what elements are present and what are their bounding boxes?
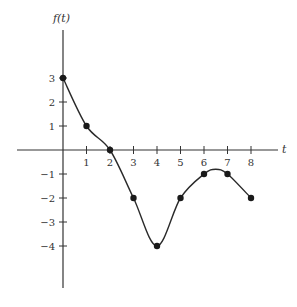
y-tick-label: −4 (40, 241, 55, 252)
data-point (83, 123, 89, 129)
y-tick-label: −1 (40, 169, 55, 180)
data-point (224, 171, 230, 177)
function-graph: 12345678 321−1−2−3−4 t f(t) (0, 0, 297, 307)
x-tick-label: 2 (107, 157, 113, 168)
data-point (107, 147, 113, 153)
x-tick-label: 5 (177, 157, 183, 168)
y-tick-label: 2 (49, 97, 55, 108)
x-tick-label: 8 (248, 157, 254, 168)
data-point (154, 243, 160, 249)
x-tick-label: 3 (130, 157, 136, 168)
y-tick-label: 1 (49, 121, 55, 132)
x-tick-label: 4 (154, 157, 160, 168)
y-tick-label: 3 (49, 73, 55, 84)
x-axis: 12345678 (17, 146, 278, 168)
data-point (177, 195, 183, 201)
y-tick-label: −2 (40, 193, 55, 204)
data-point (60, 75, 66, 81)
x-tick-label: 7 (224, 157, 230, 168)
x-axis-label: t (282, 143, 287, 156)
data-point (248, 195, 254, 201)
y-axis: 321−1−2−3−4 (40, 30, 67, 288)
y-axis-label: f(t) (52, 12, 70, 25)
x-tick-label: 6 (201, 157, 207, 168)
data-point (201, 171, 207, 177)
y-tick-label: −3 (40, 217, 55, 228)
x-tick-label: 1 (83, 157, 89, 168)
data-point (130, 195, 136, 201)
